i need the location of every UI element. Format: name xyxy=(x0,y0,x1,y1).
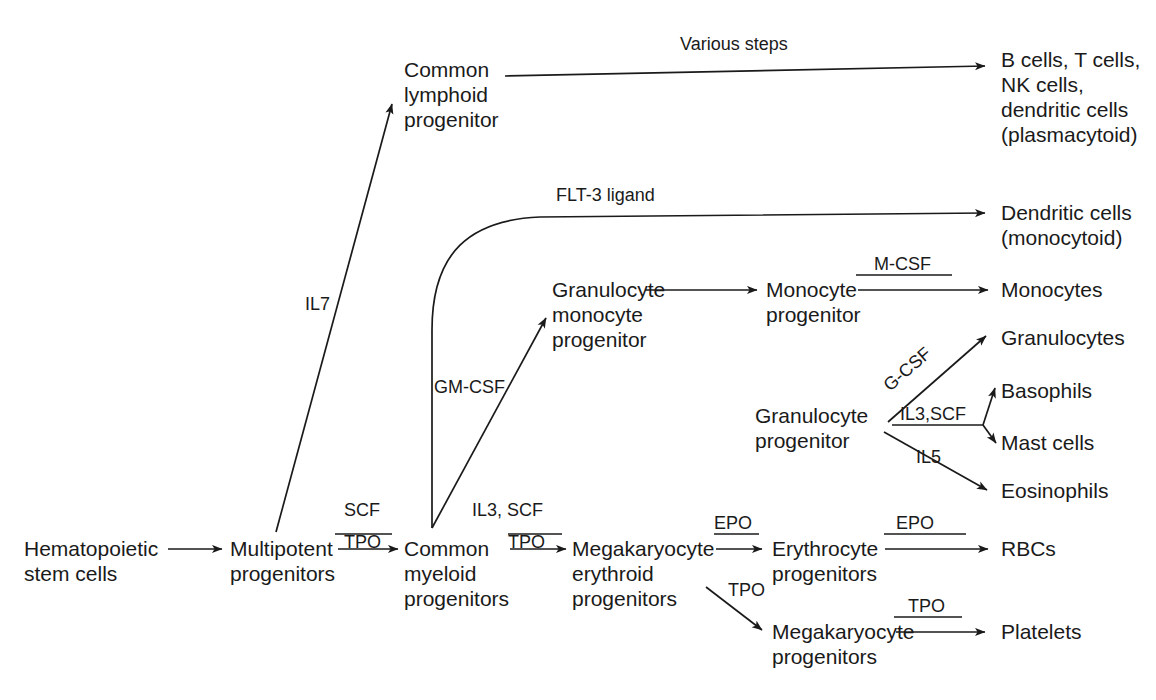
edge-label-flt3-ligand: FLT-3 ligand xyxy=(556,185,655,205)
edge-label-epo-ery: EPO xyxy=(896,513,934,533)
mep-line3: progenitors xyxy=(572,587,677,610)
edge-label-il5: IL5 xyxy=(916,447,941,467)
node-hematopoietic-stem-cells: Hematopoietic stem cells xyxy=(24,537,158,585)
node-mast-cells: Mast cells xyxy=(1001,431,1094,454)
edge-erythrocyte-progenitors-to-rbcs xyxy=(884,534,988,549)
gmp-line2: monocyte xyxy=(552,303,643,326)
node-basophils: Basophils xyxy=(1001,379,1092,402)
ery-prog-line2: progenitors xyxy=(772,562,877,585)
node-common-myeloid-progenitors: Common myeloid progenitors xyxy=(404,537,509,610)
hsc-line1: Hematopoietic xyxy=(24,537,158,560)
edge-mep-to-erythrocyte-progenitors xyxy=(714,534,762,549)
mep-line2: erythroid xyxy=(572,562,654,585)
monocytes-label: Monocytes xyxy=(1001,278,1103,301)
lymphoid-outputs-line2: NK cells, xyxy=(1001,73,1084,96)
mono-prog-line2: progenitor xyxy=(766,303,861,326)
mep-line1: Megakaryocyte xyxy=(572,537,714,560)
node-monocytes: Monocytes xyxy=(1001,278,1103,301)
node-granulocyte-monocyte-progenitor: Granulocyte monocyte progenitor xyxy=(552,278,665,351)
cmp-line2: myeloid xyxy=(404,562,476,585)
ery-prog-line1: Erythrocyte xyxy=(772,537,878,560)
lymphoid-outputs-line3: dendritic cells xyxy=(1001,98,1128,121)
node-megakaryocyte-erythroid-progenitors: Megakaryocyte erythroid progenitors xyxy=(572,537,714,610)
edge-label-tpo-platelets: TPO xyxy=(908,596,945,616)
edge-label-m-csf: M-CSF xyxy=(874,254,931,274)
gran-prog-line1: Granulocyte xyxy=(755,404,868,427)
diagram-canvas: Hematopoietic stem cells Multipotent pro… xyxy=(0,0,1156,700)
edge-label-tpo-cmp: TPO xyxy=(508,532,545,552)
mk-prog-line2: progenitors xyxy=(772,645,877,668)
platelets-label: Platelets xyxy=(1001,620,1082,643)
edge-mpp-to-clp xyxy=(276,104,392,532)
edge-label-il3-scf-gran: IL3,SCF xyxy=(900,404,966,424)
node-granulocytes: Granulocytes xyxy=(1001,326,1125,349)
mono-prog-line1: Monocyte xyxy=(766,278,857,301)
node-platelets: Platelets xyxy=(1001,620,1082,643)
node-lymphoid-outputs: B cells, T cells, NK cells, dendritic ce… xyxy=(1001,48,1140,146)
edge-label-il3-scf-cmp: IL3, SCF xyxy=(472,500,543,520)
edge-label-gm-csf: GM-CSF xyxy=(434,377,505,397)
edge-label-tpo-mpp: TPO xyxy=(344,532,381,552)
edge-label-il7: IL7 xyxy=(305,294,330,314)
mast-cells-label: Mast cells xyxy=(1001,431,1094,454)
clp-line2: lymphoid xyxy=(404,83,488,106)
edge-cmp-to-gmp xyxy=(432,318,546,528)
mk-prog-line1: Megakaryocyte xyxy=(772,620,914,643)
mpp-line2: progenitors xyxy=(230,562,335,585)
dendritic-mono-line2: (monocytoid) xyxy=(1001,226,1122,249)
edge-monocyte-progenitor-to-monocytes xyxy=(856,275,988,290)
hsc-line2: stem cells xyxy=(24,562,117,585)
rbcs-label: RBCs xyxy=(1001,537,1056,560)
clp-line3: progenitor xyxy=(404,108,499,131)
granulocytes-label: Granulocytes xyxy=(1001,326,1125,349)
node-common-lymphoid-progenitor: Common lymphoid progenitor xyxy=(404,58,499,131)
node-rbcs: RBCs xyxy=(1001,537,1056,560)
node-monocyte-progenitor: Monocyte progenitor xyxy=(766,278,861,326)
gmp-line1: Granulocyte xyxy=(552,278,665,301)
node-erythrocyte-progenitors: Erythrocyte progenitors xyxy=(772,537,878,585)
dendritic-mono-line1: Dendritic cells xyxy=(1001,201,1132,224)
node-megakaryocyte-progenitors: Megakaryocyte progenitors xyxy=(772,620,914,668)
gran-prog-line2: progenitor xyxy=(755,429,850,452)
edge-label-epo-mep: EPO xyxy=(714,513,752,533)
edge-label-scf: SCF xyxy=(344,500,380,520)
node-eosinophils: Eosinophils xyxy=(1001,479,1108,502)
lymphoid-outputs-line1: B cells, T cells, xyxy=(1001,48,1140,71)
edge-clp-to-lymphoid-outputs xyxy=(505,66,985,76)
edge-label-tpo-mk: TPO xyxy=(728,580,765,600)
basophils-label: Basophils xyxy=(1001,379,1092,402)
mpp-line1: Multipotent xyxy=(230,537,333,560)
lymphoid-outputs-line4: (plasmacytoid) xyxy=(1001,123,1138,146)
cmp-line1: Common xyxy=(404,537,489,560)
clp-line1: Common xyxy=(404,58,489,81)
cmp-line3: progenitors xyxy=(404,587,509,610)
edge-label-various-steps: Various steps xyxy=(680,34,788,54)
gmp-line3: progenitor xyxy=(552,328,647,351)
node-dendritic-cells-monocytoid: Dendritic cells (monocytoid) xyxy=(1001,201,1132,249)
node-granulocyte-progenitor: Granulocyte progenitor xyxy=(755,404,868,452)
node-multipotent-progenitors: Multipotent progenitors xyxy=(230,537,335,585)
hematopoiesis-diagram: Hematopoietic stem cells Multipotent pro… xyxy=(0,0,1156,700)
eosinophils-label: Eosinophils xyxy=(1001,479,1108,502)
